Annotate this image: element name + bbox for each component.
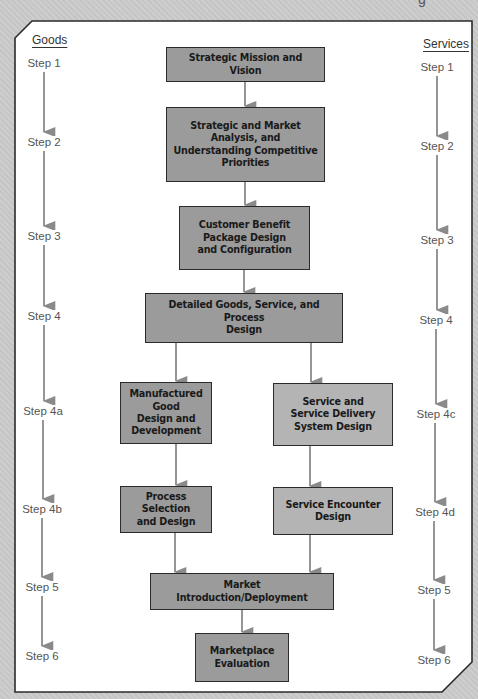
services-step-2: Step 2 bbox=[419, 140, 454, 152]
box-label: Strategic and Market Analysis, and Under… bbox=[173, 120, 317, 170]
goods-step-4a: Step 4a bbox=[22, 405, 64, 417]
box-market-analysis: Strategic and Market Analysis, and Under… bbox=[166, 107, 325, 182]
goods-step-3: Step 3 bbox=[26, 230, 61, 242]
services-column-header: Services bbox=[423, 37, 469, 51]
goods-step-4: Step 4 bbox=[26, 310, 61, 322]
box-detailed-design: Detailed Goods, Service, and Process Des… bbox=[145, 293, 343, 343]
box-label: Customer Benefit Package Design and Conf… bbox=[197, 219, 291, 256]
box-label: Process Selection and Design bbox=[127, 491, 205, 528]
box-service-encounter-design: Service Encounter Design bbox=[273, 487, 393, 535]
services-step-5: Step 5 bbox=[416, 584, 451, 596]
box-label: Service Encounter Design bbox=[286, 499, 381, 524]
box-label: Service and Service Delivery System Desi… bbox=[291, 396, 376, 433]
box-customer-benefit-package: Customer Benefit Package Design and Conf… bbox=[179, 206, 310, 270]
box-label: Detailed Goods, Service, and Process Des… bbox=[152, 299, 336, 336]
box-label: Market Introduction/Deployment bbox=[157, 579, 327, 604]
goods-step-4b: Step 4b bbox=[21, 503, 63, 515]
services-step-1: Step 1 bbox=[419, 61, 454, 73]
box-label: Marketplace Evaluation bbox=[210, 645, 275, 670]
goods-column-header: Goods bbox=[32, 33, 67, 47]
goods-step-6: Step 6 bbox=[24, 650, 59, 662]
services-step-6: Step 6 bbox=[416, 654, 451, 666]
box-process-selection: Process Selection and Design bbox=[120, 486, 212, 533]
box-manufactured-good-design: Manufactured Good Design and Development bbox=[120, 382, 212, 444]
box-label: Manufactured Good Design and Development bbox=[127, 388, 205, 438]
goods-step-5: Step 5 bbox=[24, 581, 59, 593]
box-strategic-mission: Strategic Mission and Vision bbox=[166, 47, 325, 82]
goods-step-1: Step 1 bbox=[26, 57, 61, 69]
box-label: Strategic Mission and Vision bbox=[173, 52, 318, 77]
goods-step-2: Step 2 bbox=[26, 136, 61, 148]
services-step-3: Step 3 bbox=[419, 234, 454, 246]
box-market-introduction: Market Introduction/Deployment bbox=[150, 573, 334, 610]
box-service-delivery-system-design: Service and Service Delivery System Desi… bbox=[273, 383, 393, 446]
box-marketplace-evaluation: Marketplace Evaluation bbox=[195, 633, 289, 682]
services-step-4c: Step 4c bbox=[416, 408, 457, 420]
services-step-4: Step 4 bbox=[418, 314, 453, 326]
services-step-4d: Step 4d bbox=[414, 506, 456, 518]
